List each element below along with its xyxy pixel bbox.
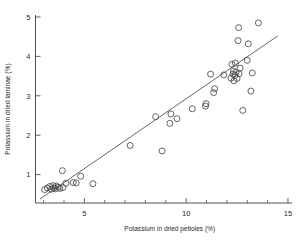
data-point (212, 86, 218, 92)
y-tick-label: 5 (26, 13, 30, 22)
x-axis-ticks (44, 198, 288, 203)
data-points (42, 20, 262, 193)
y-axis-tick-labels: 12345 (26, 13, 30, 180)
y-axis-title: Potassium in dried laminae (%) (4, 63, 12, 154)
data-point (245, 41, 251, 47)
data-point (248, 88, 254, 94)
data-point (249, 70, 255, 76)
data-point (235, 38, 241, 44)
data-point (208, 71, 214, 77)
data-point (189, 106, 195, 112)
data-point (168, 111, 174, 117)
data-point (236, 25, 242, 31)
data-point (211, 90, 217, 96)
scatter-plot: 51015 12345 Potassium in dried petioles … (0, 0, 300, 240)
regression-line (40, 36, 278, 199)
x-tick-label: 5 (82, 209, 86, 218)
y-tick-label: 3 (26, 92, 30, 101)
data-point (78, 173, 84, 179)
x-tick-label: 10 (182, 209, 190, 218)
x-tick-label: 15 (284, 209, 292, 218)
data-point (127, 142, 133, 148)
x-axis-title: Potassium in dried petioles (%) (124, 225, 215, 233)
axes-group (36, 15, 293, 203)
data-point (90, 181, 96, 187)
data-point (237, 65, 243, 71)
y-axis-ticks (36, 17, 41, 175)
data-point (240, 107, 246, 113)
data-point (159, 148, 165, 154)
data-point (174, 116, 180, 122)
x-axis-tick-labels: 51015 (82, 209, 292, 218)
data-point (255, 20, 261, 26)
chart-page: 51015 12345 Potassium in dried petioles … (0, 0, 300, 240)
data-point (167, 120, 173, 126)
y-tick-label: 1 (26, 170, 30, 179)
data-point (153, 114, 159, 120)
data-point (59, 168, 65, 174)
y-tick-label: 4 (26, 52, 30, 61)
y-tick-label: 2 (26, 131, 30, 140)
